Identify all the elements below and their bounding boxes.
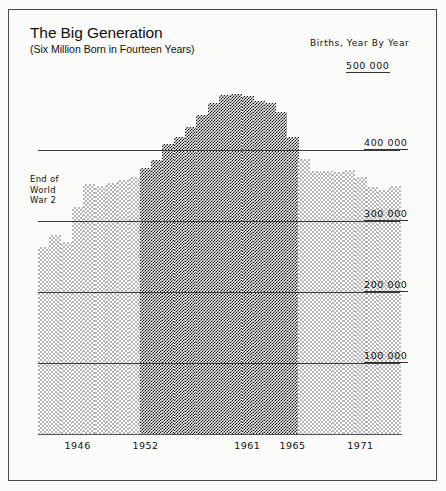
bar-1956 (185, 127, 197, 434)
chart-page: The Big Generation (Six Million Born in … (0, 0, 446, 491)
title-block: The Big Generation (Six Million Born in … (30, 24, 195, 55)
bar-1968 (321, 171, 333, 434)
x-tick-1971: 1971 (347, 440, 373, 451)
bar-1951 (129, 177, 141, 434)
gridline-400000 (38, 150, 400, 151)
axis-label-300000: 300 000 (364, 208, 408, 221)
bar-1953 (151, 160, 163, 434)
bar-1943 (38, 247, 50, 434)
bar-series (38, 70, 400, 434)
bar-1952 (140, 168, 152, 434)
bar-1959 (219, 95, 231, 434)
bar-1948 (95, 186, 107, 435)
bar-1966 (298, 159, 310, 434)
plot-area (38, 70, 400, 434)
page-title: The Big Generation (30, 24, 195, 42)
bar-1967 (310, 171, 322, 434)
bar-1958 (208, 103, 220, 434)
legend-block: Births, Year By Year 500 000 (310, 38, 430, 73)
bar-1965 (287, 137, 299, 434)
bar-1961 (242, 96, 254, 434)
x-tick-1952: 1952 (132, 440, 158, 451)
gridline-300000 (38, 221, 400, 222)
bar-1960 (230, 94, 242, 434)
bar-1955 (174, 137, 186, 434)
axis-label-100000: 100 000 (364, 350, 408, 363)
bar-1957 (196, 115, 208, 435)
gridline-100000 (38, 363, 400, 364)
annotation-line-2: World (30, 185, 59, 196)
bar-1972 (366, 187, 378, 434)
bar-1969 (332, 172, 344, 434)
annotation-line-3: War 2 (30, 195, 59, 206)
page-subtitle: (Six Million Born in Fourteen Years) (30, 43, 195, 55)
bar-1946 (72, 207, 84, 434)
bar-1950 (117, 180, 129, 434)
bar-1974 (389, 186, 401, 435)
gridline-200000 (38, 292, 400, 293)
bar-1954 (162, 144, 174, 434)
bar-1964 (276, 112, 288, 434)
bar-1945 (61, 242, 73, 434)
axis-label-200000: 200 000 (364, 279, 408, 292)
legend-title: Births, Year By Year (310, 38, 430, 48)
axis-label-400000: 400 000 (364, 137, 408, 150)
annotation-line-1: End of (30, 174, 59, 185)
x-tick-1961: 1961 (234, 440, 260, 451)
bar-1944 (49, 235, 61, 435)
bar-1973 (377, 190, 389, 434)
bar-1970 (343, 170, 355, 434)
annotation-end-of-world-war-2: End of World War 2 (30, 174, 59, 206)
bar-1963 (264, 103, 276, 434)
x-axis-line (38, 434, 402, 435)
x-tick-1946: 1946 (65, 440, 91, 451)
x-tick-1965: 1965 (279, 440, 305, 451)
